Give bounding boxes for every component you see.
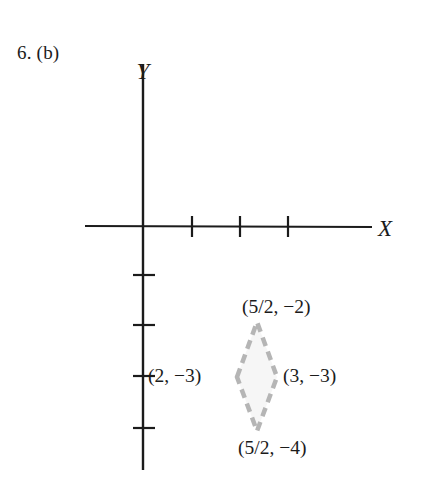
y-axis-label: Y (137, 59, 152, 84)
x-axis-label: X (377, 216, 393, 241)
coordinate-plot: X Y (0, 0, 424, 492)
vertex-label-bottom: (5/2, −4) (238, 438, 306, 458)
vertex-label-top: (5/2, −2) (242, 297, 310, 317)
feasible-region-diamond (237, 322, 277, 431)
vertex-label-right: (3, −3) (283, 366, 336, 386)
worksheet-figure: 6. (b) X Y (5/2, −2) (2, −3) (3, −3) (5/… (0, 0, 424, 492)
x-axis-line (85, 226, 372, 227)
vertex-label-left: (2, −3) (148, 366, 201, 386)
